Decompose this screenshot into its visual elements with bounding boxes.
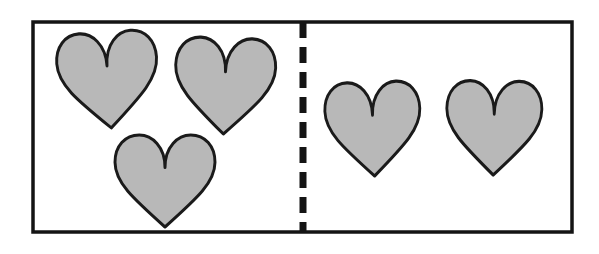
- set-partition-figure: [0, 0, 599, 254]
- figure-canvas: Five gray hearts inside a rectangle spli…: [0, 0, 599, 254]
